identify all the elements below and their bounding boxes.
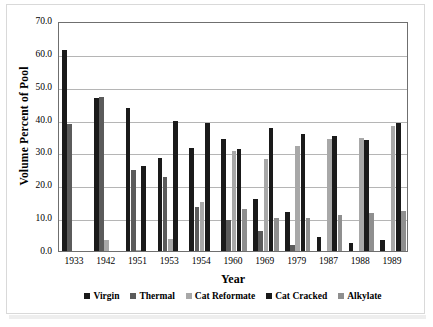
bar-alkylate [274, 218, 279, 251]
legend-swatch-icon [186, 293, 192, 299]
bar-virgin [317, 237, 322, 251]
y-axis-tick-label: 0.0 [4, 247, 52, 257]
x-axis-tick-label: 1989 [372, 256, 412, 266]
bar-cat-reformate [200, 202, 205, 251]
legend-item-cat-reformate[interactable]: Cat Reformate [186, 291, 255, 301]
bar-cat-cracked [364, 140, 369, 251]
bar-cat-reformate [327, 139, 332, 251]
bar-cat-reformate [264, 159, 269, 251]
bar-cat-cracked [269, 128, 274, 251]
bar-thermal [290, 245, 295, 251]
bar-virgin [94, 98, 99, 251]
bar-group [377, 23, 409, 251]
bar-virgin [349, 243, 354, 251]
bar-alkylate [401, 211, 406, 251]
bar-cat-cracked [237, 149, 242, 251]
bar-group [154, 23, 186, 251]
bar-group [91, 23, 123, 251]
legend-item-cat-cracked[interactable]: Cat Cracked [266, 291, 327, 301]
bar-alkylate [369, 213, 374, 251]
bar-group [218, 23, 250, 251]
bar-cat-cracked [173, 121, 178, 251]
y-axis-title: Volume Percent of Pool [18, 31, 30, 221]
bar-group [314, 23, 346, 251]
legend-swatch-icon [84, 293, 90, 299]
bar-cat-reformate [136, 250, 141, 251]
legend-swatch-icon [130, 293, 136, 299]
bar-cat-cracked [396, 123, 401, 251]
legend-item-alkylate[interactable]: Alkylate [338, 291, 381, 301]
bar-cat-reformate [168, 239, 173, 251]
bar-thermal [131, 170, 136, 251]
chart-legend: VirginThermalCat ReformateCat CrackedAlk… [58, 291, 408, 301]
bar-alkylate [242, 209, 247, 251]
bar-virgin [380, 240, 385, 251]
bar-virgin [158, 158, 163, 251]
chart-screenshot: Volume Percent of Pool 0.010.020.030.040… [0, 0, 433, 327]
bar-virgin [62, 50, 67, 251]
y-axis-tick-label: 40.0 [4, 116, 52, 126]
bar-thermal [258, 231, 263, 251]
bar-virgin [285, 212, 290, 251]
bar-thermal [163, 177, 168, 251]
legend-item-thermal[interactable]: Thermal [130, 291, 174, 301]
bar-virgin [253, 199, 258, 251]
legend-label: Virgin [93, 291, 119, 301]
legend-swatch-icon [266, 293, 272, 299]
legend-label: Cat Cracked [275, 291, 327, 301]
bar-group [250, 23, 282, 251]
bar-cat-cracked [205, 123, 210, 251]
bar-group [345, 23, 377, 251]
bar-cat-cracked [141, 166, 146, 251]
bar-alkylate [338, 215, 343, 251]
legend-label: Cat Reformate [195, 291, 255, 301]
figure-shadow [9, 315, 426, 319]
y-axis-tick-label: 30.0 [4, 148, 52, 158]
bar-cat-reformate [295, 146, 300, 251]
y-axis-tick-label: 10.0 [4, 214, 52, 224]
legend-swatch-icon [338, 293, 344, 299]
y-axis-tick-label: 70.0 [4, 17, 52, 27]
legend-label: Thermal [139, 291, 174, 301]
y-axis-tick-label: 20.0 [4, 181, 52, 191]
bar-thermal [226, 220, 231, 251]
x-axis-title: Year [58, 272, 408, 287]
bar-virgin [221, 139, 226, 251]
bar-group [123, 23, 155, 251]
plot-area [58, 22, 408, 252]
bar-thermal [99, 97, 104, 251]
bar-virgin [126, 108, 131, 251]
bar-thermal [195, 207, 200, 251]
bar-group [186, 23, 218, 251]
bar-cat-reformate [232, 151, 237, 251]
bar-cat-reformate [391, 126, 396, 251]
bars-layer [59, 23, 407, 251]
y-axis-tick-label: 50.0 [4, 83, 52, 93]
y-axis-tick-label: 60.0 [4, 50, 52, 60]
bar-cat-cracked [332, 136, 337, 251]
bar-group [59, 23, 91, 251]
bar-virgin [189, 148, 194, 251]
bar-alkylate [306, 218, 311, 251]
legend-item-virgin[interactable]: Virgin [84, 291, 119, 301]
bar-cat-reformate [104, 240, 109, 252]
bar-thermal [67, 124, 72, 251]
bar-cat-cracked [301, 134, 306, 251]
bar-group [282, 23, 314, 251]
bar-cat-reformate [359, 138, 364, 251]
legend-label: Alkylate [347, 291, 381, 301]
